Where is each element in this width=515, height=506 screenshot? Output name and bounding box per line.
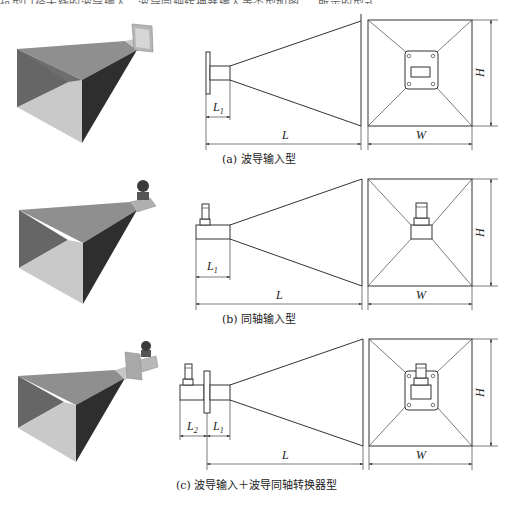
horn-3d-render-waveguide-coax <box>18 341 158 462</box>
label-l2-c: L2 <box>186 419 198 435</box>
waveguide-flange <box>206 52 210 94</box>
label-h-b: H <box>473 227 487 238</box>
label-l1-b: L1 <box>206 259 218 275</box>
label-h-a: H <box>473 67 487 78</box>
side-view-c: L2 L1 L <box>180 339 363 470</box>
waveguide-section <box>210 385 230 400</box>
horn-3d-render-waveguide <box>17 24 153 143</box>
label-w-c: W <box>416 448 427 462</box>
label-w-b: W <box>416 288 427 302</box>
panel-a: L1 L W H <box>17 14 498 150</box>
coax-adapter-body <box>180 385 204 400</box>
coax-connector-base <box>200 219 210 225</box>
label-l1-c: L1 <box>212 419 224 435</box>
label-h-c: H <box>473 387 487 398</box>
label-w-a: W <box>416 128 427 142</box>
waveguide-port <box>411 67 430 77</box>
panel-b: L1 L W H <box>19 179 498 310</box>
side-view-b: L1 L <box>196 179 362 310</box>
front-view-a: W H <box>368 20 498 150</box>
coax-connector-front <box>416 364 426 378</box>
caption-c: (c) 波导输入＋波导同轴转换器型 <box>176 476 337 492</box>
coax-adapter-front <box>411 225 432 239</box>
label-l-b: L <box>275 288 283 302</box>
caption-a: (a) 波导输入型 <box>222 150 296 166</box>
coax-connector-front <box>416 203 427 218</box>
horn-3d-render-coaxial <box>19 180 156 304</box>
waveguide-flange <box>204 371 210 413</box>
side-view-a: L1 L <box>206 14 361 150</box>
coax-adapter-front <box>411 385 431 399</box>
label-l1-a: L1 <box>212 100 224 116</box>
caption-b: (b) 同轴输入型 <box>222 310 296 326</box>
coax-connector <box>202 204 209 219</box>
coax-adapter-body <box>196 225 230 239</box>
label-l-a: L <box>281 128 289 142</box>
front-view-c: W H <box>369 339 498 470</box>
waveguide-section <box>210 66 230 80</box>
panel-c: L2 L1 L W H <box>18 339 498 470</box>
front-view-b: W H <box>368 179 498 310</box>
horn-antenna-figure: L1 L W H <box>0 0 515 506</box>
label-l-c: L <box>281 448 289 462</box>
coax-connector <box>185 364 192 379</box>
